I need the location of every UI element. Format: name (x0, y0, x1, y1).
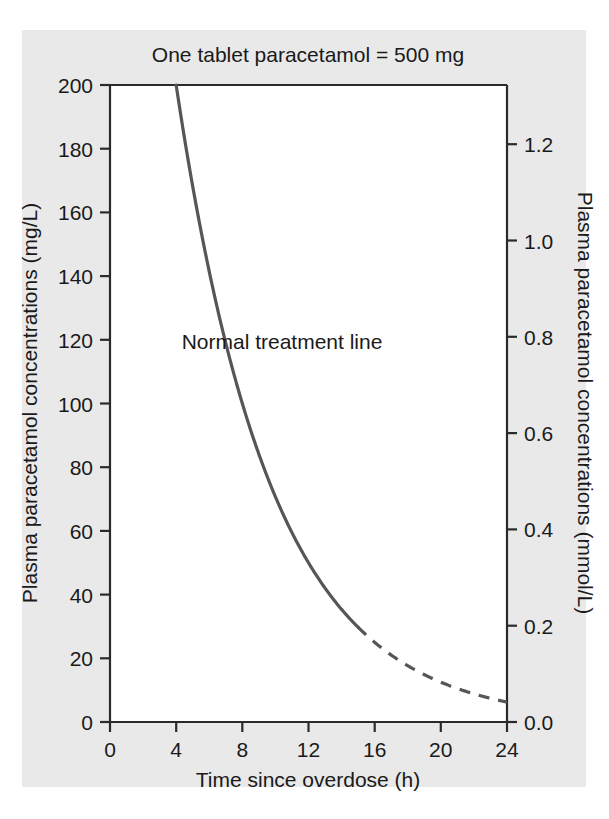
paracetamol-nomogram-chart: One tablet paracetamol = 500 mg 200 180 (0, 0, 609, 819)
y-right-tick-label: 0.0 (524, 711, 553, 734)
x-tick-label: 8 (236, 738, 248, 761)
y-left-tick-label: 160 (58, 201, 93, 224)
y-axis-right-ticks (507, 144, 517, 722)
x-axis-tick-labels: 0 4 8 12 16 20 24 (104, 738, 519, 761)
y-right-tick-label: 0.6 (524, 422, 553, 445)
x-tick-label: 24 (495, 738, 519, 761)
x-tick-label: 0 (104, 738, 116, 761)
x-tick-label: 20 (429, 738, 452, 761)
y-axis-right-tick-labels: 1.2 1.0 0.8 0.6 0.4 0.2 0.0 (524, 133, 554, 734)
y-axis-left-ticks (100, 85, 110, 722)
x-axis-title: Time since overdose (h) (196, 768, 420, 791)
y-right-tick-label: 1.0 (524, 230, 553, 253)
y-axis-left-tick-labels: 200 180 160 140 120 100 80 60 40 20 0 (58, 74, 93, 734)
y-axis-left-title: Plasma paracetamol concentrations (mg/L) (18, 203, 41, 603)
figure-root: One tablet paracetamol = 500 mg 200 180 (0, 0, 609, 819)
chart-title: One tablet paracetamol = 500 mg (152, 43, 464, 66)
y-left-tick-label: 40 (70, 584, 93, 607)
x-tick-label: 16 (363, 738, 386, 761)
y-left-tick-label: 200 (58, 74, 93, 97)
y-left-tick-label: 120 (58, 329, 93, 352)
treatment-line-annotation: Normal treatment line (182, 330, 383, 353)
y-left-tick-label: 140 (58, 265, 93, 288)
y-right-tick-label: 0.4 (524, 518, 554, 541)
y-left-tick-label: 80 (70, 456, 93, 479)
y-right-tick-label: 0.2 (524, 615, 553, 638)
y-left-tick-label: 0 (81, 711, 93, 734)
x-tick-label: 4 (170, 738, 182, 761)
y-left-tick-label: 180 (58, 138, 93, 161)
y-left-tick-label: 100 (58, 393, 93, 416)
x-axis-ticks (110, 722, 507, 732)
y-axis-right-title: Plasma paracetamol concentrations (mmol/… (574, 192, 597, 615)
x-tick-label: 12 (297, 738, 320, 761)
plot-area-background (110, 85, 507, 722)
y-left-tick-label: 60 (70, 520, 93, 543)
y-right-tick-label: 1.2 (524, 133, 553, 156)
y-right-tick-label: 0.8 (524, 326, 553, 349)
y-left-tick-label: 20 (70, 647, 93, 670)
